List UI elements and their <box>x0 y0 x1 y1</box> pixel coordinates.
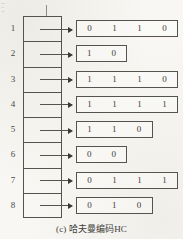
code-bit: 0 <box>102 46 127 61</box>
huffman-code-figure: 1011021031110411115110600701118010 (c) 哈… <box>0 0 183 239</box>
code-bit: 0 <box>127 122 152 137</box>
figure-caption: (c) 哈夫曼编码HC <box>0 222 183 235</box>
code-box: 1111 <box>76 96 178 113</box>
pointer-arrow <box>40 130 72 131</box>
row-index-label: 1 <box>6 24 20 33</box>
row-index-label: 7 <box>6 176 20 185</box>
code-bit: 1 <box>102 173 127 188</box>
code-bit: 1 <box>102 97 127 112</box>
code-bit: 0 <box>127 198 152 213</box>
code-bit: 1 <box>102 21 127 36</box>
code-box: 110 <box>76 121 153 138</box>
code-bit: 0 <box>102 147 127 162</box>
code-bit: 1 <box>102 122 127 137</box>
code-bit: 0 <box>152 72 177 87</box>
row-index-label: 3 <box>6 75 20 84</box>
scan-edge-artifact <box>1 3 5 4</box>
pointer-arrow <box>40 29 72 30</box>
code-bit: 1 <box>127 21 152 36</box>
pointer-cell <box>24 194 61 219</box>
column-tick-mark <box>46 5 47 16</box>
code-box: 0111 <box>76 172 178 189</box>
pointer-arrow <box>40 205 72 206</box>
code-bit: 0 <box>77 147 102 162</box>
row-index-label: 4 <box>6 100 20 109</box>
scan-edge-artifact <box>1 11 5 12</box>
code-bit: 1 <box>127 97 152 112</box>
code-bit: 1 <box>127 173 152 188</box>
row-index-label: 8 <box>6 201 20 210</box>
scan-edge-artifact <box>1 7 4 8</box>
code-bit: 1 <box>102 198 127 213</box>
pointer-arrow <box>40 104 72 105</box>
code-bit: 1 <box>127 72 152 87</box>
code-box: 10 <box>76 45 127 62</box>
code-bit: 0 <box>152 21 177 36</box>
code-bit: 1 <box>77 122 102 137</box>
pointer-cell <box>24 169 61 194</box>
pointer-arrow <box>40 180 72 181</box>
code-bit: 0 <box>77 173 102 188</box>
pointer-arrow <box>40 155 72 156</box>
row-index-label: 5 <box>6 125 20 134</box>
pointer-arrow <box>40 54 72 55</box>
code-box: 00 <box>76 146 127 163</box>
code-box: 0110 <box>76 20 178 37</box>
pointer-column-table <box>23 16 62 218</box>
row-index-label: 6 <box>6 150 20 159</box>
code-bit: 1 <box>152 97 177 112</box>
row-index-label: 2 <box>6 49 20 58</box>
code-bit: 0 <box>77 198 102 213</box>
code-box: 010 <box>76 197 153 214</box>
code-bit: 1 <box>77 97 102 112</box>
pointer-cell <box>24 93 61 118</box>
code-bit: 1 <box>77 46 102 61</box>
code-box: 1110 <box>76 71 178 88</box>
pointer-arrow <box>40 79 72 80</box>
code-bit: 1 <box>102 72 127 87</box>
pointer-cell <box>24 68 61 93</box>
code-bit: 1 <box>152 173 177 188</box>
code-bit: 1 <box>77 72 102 87</box>
code-bit: 0 <box>77 21 102 36</box>
